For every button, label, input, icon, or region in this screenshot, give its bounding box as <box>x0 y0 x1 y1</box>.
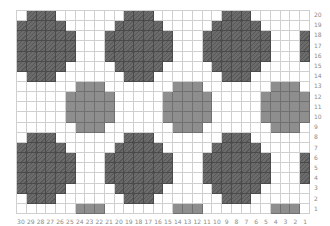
grid-cell-background <box>193 72 203 82</box>
grid-cell-background <box>27 204 37 214</box>
grid-cell-background <box>193 11 203 21</box>
grid-cell-background <box>154 82 164 92</box>
grid-cell-background <box>46 204 56 214</box>
grid-cell-background <box>281 41 291 51</box>
grid-cell-background <box>203 194 213 204</box>
grid-cell-background <box>95 173 105 183</box>
grid-cell-background <box>134 102 144 112</box>
grid-cell-light-contrast <box>163 102 173 112</box>
grid-cell-light-contrast <box>76 92 86 102</box>
grid-cell-background <box>183 31 193 41</box>
grid-cell-background <box>232 92 242 102</box>
grid-cell-background <box>66 143 76 153</box>
grid-cell-dark-contrast <box>46 143 56 153</box>
grid-cell-background <box>163 11 173 21</box>
grid-cell-dark-contrast <box>261 173 271 183</box>
column-label: 13 <box>183 217 193 226</box>
grid-cell-dark-contrast <box>124 153 134 163</box>
grid-cell-background <box>66 123 76 133</box>
grid-cell-dark-contrast <box>144 52 154 62</box>
grid-cell-dark-contrast <box>115 163 125 173</box>
grid-cell-background <box>163 194 173 204</box>
grid-cell-dark-contrast <box>212 21 222 31</box>
grid-cell-dark-contrast <box>242 184 252 194</box>
grid-cell-background <box>290 41 300 51</box>
grid-cell-dark-contrast <box>300 31 310 41</box>
row-label: 13 <box>312 81 330 91</box>
grid-cell-dark-contrast <box>144 184 154 194</box>
grid-cell-background <box>76 11 86 21</box>
grid-cell-background <box>17 92 27 102</box>
grid-cell-background <box>193 62 203 72</box>
grid-cell-light-contrast <box>193 112 203 122</box>
grid-cell-light-contrast <box>173 112 183 122</box>
grid-cell-light-contrast <box>261 112 271 122</box>
grid-cell-background <box>173 143 183 153</box>
grid-cell-light-contrast <box>290 204 300 214</box>
grid-cell-background <box>183 173 193 183</box>
row-label: 1 <box>312 204 330 214</box>
grid-cell-background <box>281 11 291 21</box>
row-label: 9 <box>312 122 330 132</box>
grid-cell-background <box>290 31 300 41</box>
grid-cell-dark-contrast <box>144 41 154 51</box>
grid-cell-dark-contrast <box>17 52 27 62</box>
grid-cell-dark-contrast <box>134 62 144 72</box>
grid-cell-background <box>232 102 242 112</box>
grid-cell-background <box>85 153 95 163</box>
grid-cell-background <box>290 194 300 204</box>
column-label: 10 <box>212 217 222 226</box>
grid-cell-light-contrast <box>193 102 203 112</box>
grid-cell-dark-contrast <box>17 173 27 183</box>
grid-cell-background <box>300 82 310 92</box>
grid-cell-background <box>290 21 300 31</box>
grid-cell-dark-contrast <box>56 21 66 31</box>
grid-cell-background <box>281 163 291 173</box>
grid-cell-dark-contrast <box>300 153 310 163</box>
grid-cell-background <box>163 82 173 92</box>
grid-cell-background <box>222 82 232 92</box>
grid-cell-light-contrast <box>85 112 95 122</box>
grid-cell-background <box>46 92 56 102</box>
grid-cell-background <box>76 163 86 173</box>
grid-cell-background <box>251 11 261 21</box>
grid-cell-background <box>203 62 213 72</box>
grid-cell-light-contrast <box>85 82 95 92</box>
grid-cell-dark-contrast <box>242 173 252 183</box>
row-label: 17 <box>312 41 330 51</box>
grid-cell-dark-contrast <box>154 31 164 41</box>
grid-cell-dark-contrast <box>300 52 310 62</box>
grid-cell-light-contrast <box>76 82 86 92</box>
column-label: 6 <box>251 217 261 226</box>
grid-cell-background <box>56 204 66 214</box>
grid-cell-background <box>261 184 271 194</box>
grid-cell-light-contrast <box>183 123 193 133</box>
grid-cell-background <box>271 163 281 173</box>
grid-cell-background <box>183 184 193 194</box>
grid-cell-background <box>37 102 47 112</box>
grid-cell-background <box>124 82 134 92</box>
grid-cell-light-contrast <box>183 102 193 112</box>
grid-cell-dark-contrast <box>163 41 173 51</box>
grid-cell-light-contrast <box>163 112 173 122</box>
grid-cell-light-contrast <box>95 204 105 214</box>
grid-cell-background <box>183 194 193 204</box>
grid-cell-background <box>261 123 271 133</box>
grid-cell-dark-contrast <box>203 52 213 62</box>
grid-cell-background <box>261 133 271 143</box>
grid-cell-dark-contrast <box>124 21 134 31</box>
grid-cell-background <box>232 82 242 92</box>
grid-cell-dark-contrast <box>232 62 242 72</box>
column-number-labels: 3029282726252423222120191817161514131211… <box>16 217 310 226</box>
grid-cell-background <box>281 194 291 204</box>
grid-cell-dark-contrast <box>17 184 27 194</box>
grid-cell-background <box>183 143 193 153</box>
grid-cell-background <box>76 52 86 62</box>
grid-cell-dark-contrast <box>232 11 242 21</box>
grid-cell-dark-contrast <box>154 163 164 173</box>
grid-cell-background <box>290 184 300 194</box>
grid-cell-light-contrast <box>271 92 281 102</box>
grid-cell-dark-contrast <box>251 153 261 163</box>
grid-cell-dark-contrast <box>222 31 232 41</box>
row-label: 12 <box>312 92 330 102</box>
